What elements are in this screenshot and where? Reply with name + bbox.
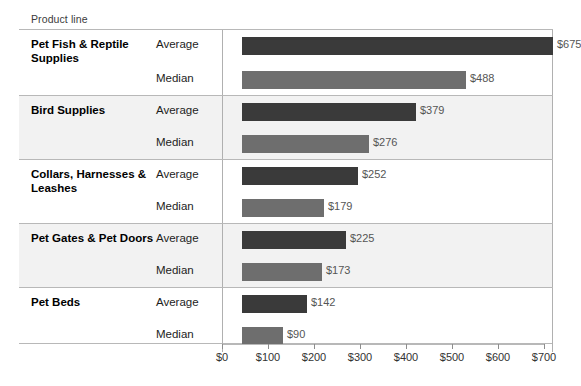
category-label: Pet Fish & Reptile Supplies [31,38,155,65]
bar-value-label: $142 [311,296,335,308]
measure-label: Average [156,104,199,116]
measure-label: Average [156,232,199,244]
bar-median[interactable] [242,199,324,217]
bar-median[interactable] [242,327,283,345]
bar-track: $142 [223,288,552,320]
axis-tick [452,344,453,349]
axis-tick-label: $200 [302,351,326,363]
bar-average[interactable] [242,37,553,55]
bar-value-label: $173 [326,264,350,276]
bar-median[interactable] [242,71,466,89]
bar-track: $173 [223,256,552,288]
bar-value-label: $252 [362,168,386,180]
axis-tick [222,344,223,349]
bar-value-label: $179 [328,200,352,212]
measure-label: Median [156,136,194,148]
bar-track: $379 [223,96,552,128]
bar-track: $179 [223,192,552,224]
category-label: Pet Gates & Pet Doors [31,232,155,246]
category-label: Pet Beds [31,296,155,310]
axis-tick [544,344,545,349]
bar-value-label: $276 [373,136,397,148]
bar-track: $252 [223,160,552,192]
bar-average[interactable] [242,103,416,121]
axis-tick-label: $0 [216,351,228,363]
category-group-row: Bird SuppliesAverageMedian$379$276 [19,96,553,160]
dimension-header-label: Product line [31,13,88,25]
bar-value-label: $379 [420,104,444,116]
axis-tick [498,344,499,349]
plot-panel: $142$90 [222,288,553,352]
category-group-row: Pet Gates & Pet DoorsAverageMedian$225$1… [19,224,553,288]
bar-track: $225 [223,224,552,256]
bar-track: $276 [223,128,552,160]
category-label: Bird Supplies [31,104,155,118]
measure-label: Median [156,72,194,84]
axis-tick-label: $300 [348,351,372,363]
measure-label: Average [156,296,199,308]
category-group-row: Pet Fish & Reptile SuppliesAverageMedian… [19,30,553,96]
axis-tick-label: $500 [440,351,464,363]
plot-panel: $675$488 [222,30,553,95]
bar-value-label: $675 [557,38,581,50]
chart-table-frame: Pet Fish & Reptile SuppliesAverageMedian… [19,29,553,344]
category-label: Collars, Harnesses & Leashes [31,168,155,195]
axis-tick [406,344,407,349]
bar-average[interactable] [242,231,346,249]
bar-track: $488 [223,64,552,96]
axis-tick [314,344,315,349]
axis-tick-label: $600 [486,351,510,363]
bar-track: $675 [223,30,552,62]
measure-label: Average [156,168,199,180]
bar-value-label: $90 [287,328,305,340]
plot-panel: $252$179 [222,160,553,223]
measure-label: Average [156,38,199,50]
measure-label: Median [156,264,194,276]
measure-label: Median [156,200,194,212]
axis-tick [268,344,269,349]
bar-value-label: $225 [350,232,374,244]
bar-value-label: $488 [470,72,494,84]
bar-median[interactable] [242,135,369,153]
measure-label: Median [156,328,194,340]
plot-panel: $225$173 [222,224,553,287]
x-axis-line [222,344,544,345]
axis-tick-label: $100 [256,351,280,363]
category-group-row: Collars, Harnesses & LeashesAverageMedia… [19,160,553,224]
x-axis: $0$100$200$300$400$500$600$700 [222,344,544,374]
axis-tick [360,344,361,349]
plot-panel: $379$276 [222,96,553,159]
bar-average[interactable] [242,295,307,313]
bar-average[interactable] [242,167,358,185]
bar-median[interactable] [242,263,322,281]
category-group-row: Pet BedsAverageMedian$142$90 [19,288,553,352]
axis-tick-label: $400 [394,351,418,363]
axis-tick-label: $700 [532,351,556,363]
